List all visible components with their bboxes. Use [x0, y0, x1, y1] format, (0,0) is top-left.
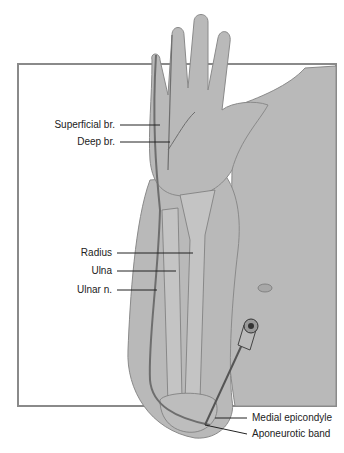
anatomy-illustration: [0, 0, 344, 453]
label-deep-branch: Deep br.: [77, 136, 115, 148]
label-ulnar-nerve: Ulnar n.: [77, 284, 112, 296]
label-aponeurotic-band: Aponeurotic band: [252, 428, 330, 440]
label-radius: Radius: [81, 247, 112, 259]
label-medial-epicondyle: Medial epicondyle: [252, 412, 332, 424]
nipple: [258, 284, 272, 292]
needle-cap-hole: [248, 323, 254, 329]
label-superficial-branch: Superficial br.: [54, 119, 115, 131]
label-ulna: Ulna: [91, 265, 112, 277]
